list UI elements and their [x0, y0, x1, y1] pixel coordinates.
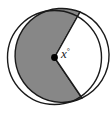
angle-variable: x — [61, 46, 67, 61]
angle-label: x° — [61, 47, 70, 60]
degree-symbol: ° — [67, 47, 70, 56]
center-point-dot — [51, 54, 58, 61]
circle-sector-figure: x° — [0, 0, 111, 115]
sector-diagram-svg — [0, 0, 111, 115]
